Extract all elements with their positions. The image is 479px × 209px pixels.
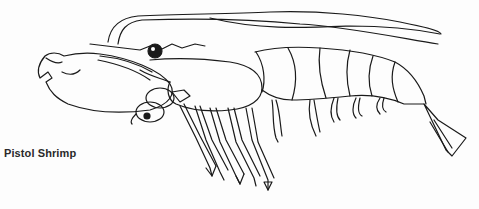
figure: Pistol Shrimp (0, 0, 479, 209)
tail-fan (424, 104, 466, 156)
swimmerets (272, 98, 386, 142)
walking-legs (180, 104, 274, 190)
antennae (108, 12, 441, 44)
rostrum (90, 44, 205, 50)
pistol-shrimp-illustration (0, 0, 479, 209)
eye (148, 44, 162, 58)
abdomen (255, 47, 426, 104)
figure-caption: Pistol Shrimp (4, 147, 76, 159)
